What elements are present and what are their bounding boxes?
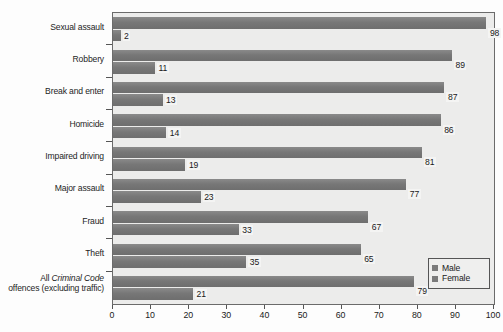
bar-value-label-female: 33 — [241, 225, 253, 235]
bar-value-label-male: 67 — [370, 222, 382, 232]
bar-value-label-male: 87 — [446, 92, 458, 102]
bar-value-label-female: 35 — [248, 257, 260, 267]
x-axis-tick — [379, 305, 380, 309]
legend-label: Female — [442, 274, 470, 283]
bar-female — [113, 224, 239, 236]
bar-female — [113, 127, 166, 139]
category-label: Break and enter — [45, 87, 104, 97]
bar-female — [113, 62, 155, 74]
chart-legend: MaleFemale — [428, 258, 490, 289]
bar-male — [113, 276, 414, 288]
bar-value-label-female: 14 — [168, 128, 180, 138]
bar-value-label-male: 77 — [408, 189, 420, 199]
category-label: Major assault — [55, 184, 104, 194]
bar-female — [113, 94, 163, 106]
x-axis-tick-label: 10 — [145, 310, 155, 321]
y-axis-tick — [106, 174, 112, 175]
bar-value-label-male: 86 — [443, 125, 455, 135]
bar-value-label-male: 89 — [454, 60, 466, 70]
bar-value-label-female: 19 — [187, 160, 199, 170]
y-axis-tick — [106, 77, 112, 78]
x-axis-tick — [150, 305, 151, 309]
bar-value-label-male: 81 — [424, 157, 436, 167]
bar-male — [113, 179, 406, 191]
x-axis-tick-label: 60 — [336, 310, 346, 321]
bar-value-label-female: 13 — [165, 95, 177, 105]
bar-male — [113, 82, 444, 94]
x-axis-tick — [226, 305, 227, 309]
bar-male — [113, 211, 368, 223]
x-axis-tick-label: 80 — [412, 310, 422, 321]
y-axis-tick — [106, 206, 112, 207]
x-axis-tick-labels: 0102030405060708090100 — [0, 310, 503, 324]
x-axis-tick — [112, 305, 113, 309]
category-label: Fraud — [82, 217, 104, 227]
x-axis-tick — [188, 305, 189, 309]
x-axis-tick — [417, 305, 418, 309]
y-axis-tick — [106, 271, 112, 272]
bar-male — [113, 114, 441, 126]
legend-label: Male — [442, 264, 460, 273]
x-axis-tick-label: 100 — [486, 310, 500, 321]
category-label-column: Sexual assaultRobberyBreak and enterHomi… — [0, 12, 108, 305]
x-axis-tick-label: 30 — [222, 310, 232, 321]
bar-value-label-male: 98 — [488, 28, 500, 38]
bar-female — [113, 256, 246, 268]
bar-value-label-female: 2 — [123, 31, 131, 41]
category-label: Sexual assault — [50, 23, 104, 33]
x-axis-tick-label: 40 — [260, 310, 270, 321]
y-axis-tick — [106, 44, 112, 45]
category-label: Robbery — [73, 55, 104, 65]
x-axis-tick-label: 0 — [110, 310, 115, 321]
legend-swatch-icon — [432, 276, 438, 282]
x-axis-tick-label: 20 — [183, 310, 193, 321]
bar-value-label-male: 65 — [363, 254, 375, 264]
x-axis-tick — [341, 305, 342, 309]
x-axis-tick-label: 50 — [298, 310, 308, 321]
legend-item: Male — [432, 264, 485, 273]
category-label: Theft — [85, 249, 104, 259]
bar-value-label-male: 79 — [416, 286, 428, 296]
y-axis-tick — [106, 238, 112, 239]
category-label: All Criminal Codeoffences (excluding tra… — [0, 274, 104, 293]
x-axis-tick — [455, 305, 456, 309]
y-axis-tick — [106, 109, 112, 110]
legend-item: Female — [432, 274, 485, 283]
x-axis-tick — [303, 305, 304, 309]
bar-female — [113, 288, 193, 300]
category-label-italic: Criminal Code — [52, 273, 105, 283]
bar-male — [113, 50, 452, 62]
bar-female — [113, 191, 201, 203]
x-axis-tick — [264, 305, 265, 309]
x-axis-tick-label: 90 — [450, 310, 460, 321]
bar-value-label-female: 23 — [203, 192, 215, 202]
category-label: Impaired driving — [45, 152, 104, 162]
bar-value-label-female: 11 — [157, 63, 169, 73]
bar-female — [113, 30, 121, 42]
bar-male — [113, 17, 486, 29]
bar-male — [113, 244, 361, 256]
legend-swatch-icon — [432, 265, 438, 271]
category-label: Homicide — [69, 120, 104, 130]
bar-chart-figure: Sexual assaultRobberyBreak and enterHomi… — [0, 0, 503, 332]
bar-female — [113, 159, 185, 171]
bar-male — [113, 147, 422, 159]
bar-value-label-female: 21 — [195, 289, 207, 299]
x-axis-tick — [493, 305, 494, 309]
x-axis-tick-label: 70 — [374, 310, 384, 321]
y-axis-tick — [106, 141, 112, 142]
